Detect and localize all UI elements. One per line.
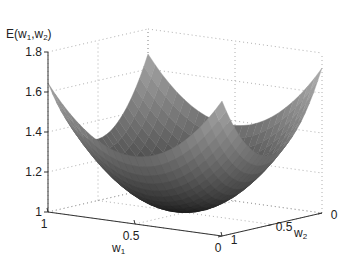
y-axis-label: w2 [294, 227, 307, 241]
y-tick-label: 1 [231, 233, 238, 247]
x-tick-label: 1 [41, 217, 48, 231]
z-tick-label: 1.2 [25, 165, 42, 179]
z-tick-label: 1.8 [25, 45, 42, 59]
x-axis-label: w1 [112, 242, 125, 256]
z-tick-label: 1.4 [25, 125, 42, 139]
x-tick-label: 0 [215, 241, 222, 255]
x-tick-label: 0.5 [123, 229, 140, 243]
z-axis-label: E(w1,w2) [6, 28, 52, 42]
y-tick-label: 0.5 [276, 220, 293, 234]
y-tick-label: 0 [331, 208, 338, 222]
z-tick-label: 1.6 [25, 85, 42, 99]
surface-mesh [48, 54, 322, 213]
